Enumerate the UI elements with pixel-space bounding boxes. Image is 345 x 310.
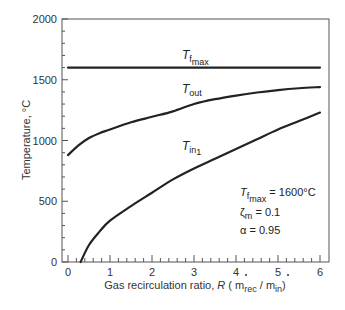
mdot-rec-dot: [245, 274, 247, 276]
x-tick-label: 5: [275, 266, 281, 278]
temperature-chart: 0500100015002000 0123456 Temperature, °C…: [0, 0, 345, 310]
y-tick-label: 2000: [33, 13, 57, 25]
y-tick-label: 500: [39, 195, 57, 207]
x-tick-label: 6: [317, 266, 323, 278]
mdot-in-dot: [287, 274, 289, 276]
x-axis-ticks: 0123456: [65, 255, 323, 278]
y-tick-label: 1000: [33, 135, 57, 147]
svg-text:Tfmax = 1600°C: Tfmax = 1600°C: [240, 186, 316, 204]
label-tfmax: Tfmax: [182, 48, 209, 67]
plot-frame: [62, 19, 329, 262]
x-tick-label: 2: [149, 266, 155, 278]
x-tick-label: 0: [65, 266, 71, 278]
label-tin1: Tin1: [182, 139, 201, 157]
y-axis-ticks: 0500100015002000: [33, 13, 68, 268]
parameter-annotation: Tfmax = 1600°C ζm = 0.1 α = 0.95: [240, 186, 316, 236]
x-axis-label: Gas recirculation ratio, R ( mrec / min): [104, 279, 286, 294]
x-tick-label: 3: [191, 266, 197, 278]
y-tick-label: 1500: [33, 74, 57, 86]
svg-text:α = 0.95: α = 0.95: [240, 224, 280, 236]
x-tick-label: 4: [233, 266, 239, 278]
label-tout: Tout: [182, 82, 202, 98]
y-tick-label: 0: [51, 256, 57, 268]
y-axis-label: Temperature, °C: [20, 100, 32, 180]
x-tick-label: 1: [107, 266, 113, 278]
svg-text:ζm = 0.1: ζm = 0.1: [240, 206, 280, 221]
